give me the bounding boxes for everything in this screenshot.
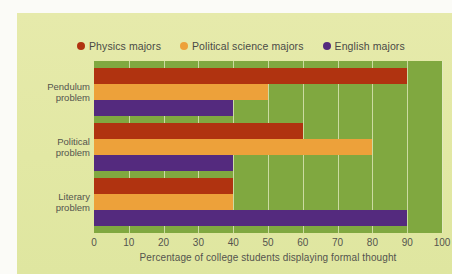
x-axis-tick-label: 70 xyxy=(332,237,343,248)
x-axis-tick-label: 90 xyxy=(402,237,413,248)
x-axis-title: Percentage of college students displayin… xyxy=(94,252,442,263)
bar[interactable] xyxy=(94,194,233,210)
dot-icon xyxy=(180,42,188,50)
gridline xyxy=(442,61,443,233)
x-axis-tick-label: 0 xyxy=(91,237,97,248)
dot-icon xyxy=(77,42,85,50)
y-axis-label-line: Political xyxy=(37,136,90,147)
legend-item-political-science: Political science majors xyxy=(180,40,304,52)
x-axis-tick-label: 50 xyxy=(262,237,273,248)
y-axis-label: Pendulumproblem xyxy=(37,81,90,103)
legend-item-english: English majors xyxy=(323,40,405,52)
bar-group xyxy=(94,178,442,226)
bar-group xyxy=(94,68,442,116)
x-axis-tick-label: 40 xyxy=(228,237,239,248)
bar-group xyxy=(94,123,442,171)
x-axis-tick-label: 80 xyxy=(367,237,378,248)
y-axis-label-line: Literary xyxy=(37,191,90,202)
x-axis-tick-label: 60 xyxy=(297,237,308,248)
bar[interactable] xyxy=(94,100,233,116)
x-axis-tick-label: 10 xyxy=(123,237,134,248)
y-axis-label: Politicalproblem xyxy=(37,136,90,158)
legend-label: Physics majors xyxy=(89,40,161,52)
plot-area xyxy=(94,61,443,233)
legend-item-physics: Physics majors xyxy=(77,40,161,52)
bar[interactable] xyxy=(94,68,407,84)
bar[interactable] xyxy=(94,139,372,155)
legend-label: Political science majors xyxy=(192,40,304,52)
y-axis-label: Literaryproblem xyxy=(37,191,90,213)
y-axis-label-line: problem xyxy=(37,92,90,103)
y-axis-label-line: problem xyxy=(37,147,90,158)
bar[interactable] xyxy=(94,84,268,100)
legend-label: English majors xyxy=(335,40,405,52)
x-axis-tick-label: 100 xyxy=(434,237,451,248)
y-axis-labels: PendulumproblemPoliticalproblemLiteraryp… xyxy=(37,61,90,233)
x-axis-tick-label: 30 xyxy=(193,237,204,248)
x-axis-tick-label: 20 xyxy=(158,237,169,248)
x-axis-ticks: 0102030405060708090100 xyxy=(94,237,442,251)
dot-icon xyxy=(323,42,331,50)
bar[interactable] xyxy=(94,155,233,171)
figure-card: Physics majors Political science majors … xyxy=(17,13,452,274)
bar[interactable] xyxy=(94,123,303,139)
chart-screenshot: Physics majors Political science majors … xyxy=(0,0,452,274)
bar[interactable] xyxy=(94,178,233,194)
y-axis-label-line: Pendulum xyxy=(37,81,90,92)
chart-legend: Physics majors Political science majors … xyxy=(77,37,437,55)
y-axis-label-line: problem xyxy=(37,202,90,213)
bar[interactable] xyxy=(94,210,407,226)
